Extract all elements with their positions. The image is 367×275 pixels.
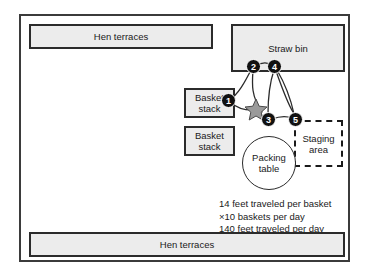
area-hen-terraces-bottom: Hen terraces [29,232,345,257]
metrics-caption: 14 feet traveled per basket ×10 baskets … [219,198,332,236]
area-label: Basket stack [186,130,233,152]
area-label: Hen terraces [160,239,214,250]
spaghetti-diagram-figure: Hen terraces Straw bin Basket stack Bask… [0,0,367,275]
area-label: Straw bin [268,43,308,54]
step-marker-4: 4 [267,59,282,74]
step-number: 4 [272,62,277,72]
step-number: 3 [266,115,271,125]
area-label: Packing table [243,152,295,174]
step-number: 2 [251,62,256,72]
area-staging-area: Staging area [294,120,343,167]
area-hen-terraces-top: Hen terraces [29,24,213,49]
step-number: 1 [226,96,231,106]
step-marker-2: 2 [246,59,261,74]
step-number: 5 [293,115,298,125]
step-marker-3: 3 [261,112,276,127]
step-marker-1: 1 [221,93,236,108]
facility-outline: Hen terraces Straw bin Basket stack Bask… [19,14,350,262]
step-marker-5: 5 [288,112,303,127]
metric-line-1: 14 feet traveled per basket [219,198,332,211]
area-label: Staging area [296,133,341,155]
area-label: Hen terraces [94,31,148,42]
area-basket-stack-lower: Basket stack [184,126,235,156]
area-packing-table: Packing table [242,136,296,190]
metric-line-2: ×10 baskets per day [219,211,332,224]
